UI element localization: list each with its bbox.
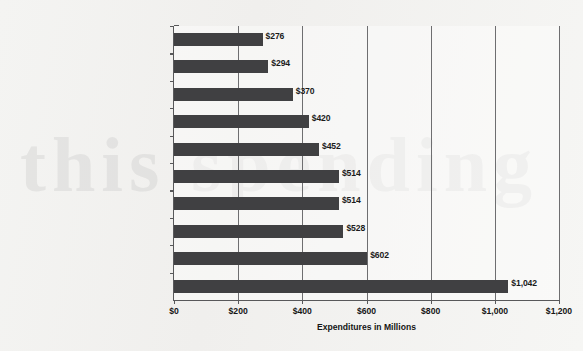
bar-row[interactable]: $602Transportation, hotels, & resorts [174, 245, 559, 272]
bar-value-label: $1,042 [511, 278, 537, 288]
bar-value-label: $514 [342, 195, 361, 205]
x-tick-label: $200 [229, 306, 248, 316]
x-tick-label: $400 [293, 306, 312, 316]
bar-chart: this spending $276Government, politics, … [0, 0, 583, 351]
x-tick-mark [302, 300, 303, 304]
bar-value-label: $294 [271, 58, 290, 68]
x-tick-mark [238, 300, 239, 304]
bar-value-label: $514 [342, 168, 361, 178]
bar[interactable] [174, 170, 339, 183]
x-tick-label: $0 [169, 306, 179, 316]
bar[interactable] [174, 197, 339, 210]
bar-value-label: $370 [296, 86, 315, 96]
x-tick-mark [559, 300, 560, 304]
x-tick-label: $1,000 [482, 306, 508, 316]
bar-row[interactable]: $514Restaurants [174, 190, 559, 217]
plot-area: $276Government, politics, and nonprofits… [173, 26, 559, 301]
bar[interactable] [174, 115, 309, 128]
bar-row[interactable]: $452Media & advertising [174, 136, 559, 163]
x-tick-mark [367, 300, 368, 304]
bar[interactable] [174, 60, 268, 73]
x-tick-mark [174, 300, 175, 304]
bar[interactable] [174, 33, 263, 46]
x-tick-label: $1,200 [546, 306, 572, 316]
x-tick-label: $800 [421, 306, 440, 316]
bar-row[interactable]: $514Communications [174, 163, 559, 190]
bar[interactable] [174, 88, 293, 101]
bar-row[interactable]: $420Insurance & real estate [174, 108, 559, 135]
x-tick-mark [431, 300, 432, 304]
bar-value-label: $420 [312, 113, 331, 123]
x-axis-title: Expenditures in Millions [174, 322, 559, 332]
bar-value-label: $452 [322, 141, 341, 151]
bar[interactable] [174, 280, 508, 293]
bar[interactable] [174, 252, 367, 265]
gridline [559, 26, 560, 300]
x-tick-mark [495, 300, 496, 304]
x-tick-label: $600 [357, 306, 376, 316]
bar-row[interactable]: $370Financial [174, 81, 559, 108]
bar-value-label: $276 [266, 31, 285, 41]
bar-row[interactable]: $276Government, politics, and nonprofits [174, 26, 559, 53]
bar-row[interactable]: $1,042Services & amusements [174, 273, 559, 300]
bar[interactable] [174, 225, 343, 238]
bar[interactable] [174, 143, 319, 156]
bar-row[interactable]: $528Retail [174, 218, 559, 245]
bar-value-label: $602 [370, 250, 389, 260]
bar-value-label: $528 [346, 223, 365, 233]
bar-row[interactable]: $294Automotive dealers & services [174, 53, 559, 80]
